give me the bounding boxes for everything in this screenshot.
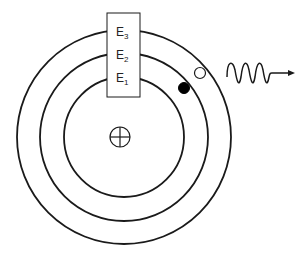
electron-filled (179, 83, 190, 94)
nucleus-plus-icon (110, 127, 130, 147)
photon-wave-arrow-icon (227, 63, 295, 83)
bohr-atom-diagram: E3 E2 E1 (0, 0, 305, 253)
electron-empty (195, 68, 206, 79)
